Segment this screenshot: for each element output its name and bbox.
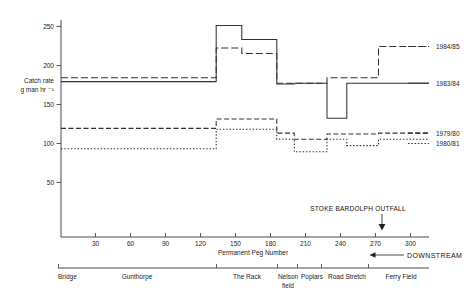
y-tick-label-250: 250 (43, 23, 54, 30)
y-tick-label-150: 150 (43, 101, 54, 108)
chart-figure: 250 200 150 100 50 Catch rate g man hr ⁻… (0, 0, 474, 294)
y-axis-title-line1: Catch rate (24, 77, 54, 84)
y-tick-label-50: 50 (47, 179, 55, 186)
zone-label-poplars: Poplars (301, 273, 324, 281)
x-tick-label-270: 270 (370, 240, 381, 247)
zone-label-nelson-field-line2: field (282, 282, 294, 289)
x-tick-label-150: 150 (230, 240, 241, 247)
x-tick-label-300: 300 (405, 240, 416, 247)
x-tick-label-90: 90 (162, 240, 170, 247)
legend: 1984/85 1983/84 1979/80 1980/81 (408, 43, 460, 147)
zone-label-nelson-field-line1: Nelson (278, 273, 299, 280)
x-tick-label-120: 120 (195, 240, 206, 247)
y-axis-title-line2: g man hr ⁻¹ (20, 86, 54, 94)
series-line-1984-85 (61, 46, 429, 83)
zone-axis: Bridge Gunthorpe The Rack Nelson field P… (58, 264, 429, 289)
stoke-bardolph-outfall-label: STOKE BARDOLPH OUTFALL (310, 205, 406, 212)
x-tick-label-180: 180 (265, 240, 276, 247)
zone-label-gunthorpe: Gunthorpe (122, 273, 153, 281)
zone-label-the-rack: The Rack (233, 273, 262, 280)
series-line-1979-80 (61, 119, 429, 139)
series-line-1980-81 (61, 129, 429, 152)
stoke-bardolph-outfall-annotation: STOKE BARDOLPH OUTFALL (310, 205, 406, 231)
legend-label-1983-84: 1983/84 (436, 80, 460, 87)
series-group (61, 26, 429, 152)
x-axis-title: Permanent Peg Number (218, 249, 289, 257)
downstream-label: DOWNSTREAM (407, 252, 462, 259)
x-tick-label-30: 30 (92, 240, 100, 247)
series-line-1983-84 (61, 26, 429, 119)
zone-label-bridge: Bridge (58, 273, 77, 281)
catch-rate-step-chart: 250 200 150 100 50 Catch rate g man hr ⁻… (0, 0, 474, 294)
y-axis: 250 200 150 100 50 Catch rate g man hr ⁻… (20, 20, 61, 237)
legend-label-1979-80: 1979/80 (436, 130, 460, 137)
x-tick-label-240: 240 (335, 240, 346, 247)
legend-label-1980-81: 1980/81 (436, 140, 460, 147)
x-tick-label-210: 210 (300, 240, 311, 247)
legend-label-1984-85: 1984/85 (436, 43, 460, 50)
zone-label-road-stretch: Road Stretch (328, 273, 366, 280)
zone-label-ferry-field: Ferry Field (385, 273, 416, 281)
y-tick-label-100: 100 (43, 140, 54, 147)
downstream-annotation: DOWNSTREAM (370, 252, 463, 259)
x-tick-label-60: 60 (127, 240, 135, 247)
stoke-bardolph-arrow-head (379, 224, 386, 231)
downstream-arrow-head (370, 252, 376, 258)
y-tick-label-200: 200 (43, 62, 54, 69)
